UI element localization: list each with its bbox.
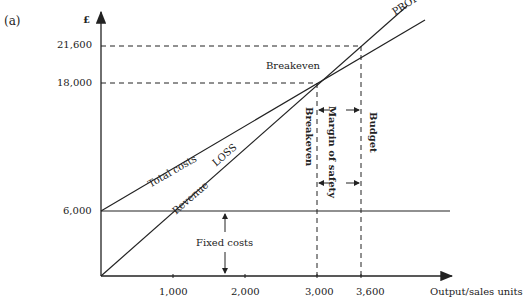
x-axis-title: Output/sales units [430,286,523,297]
budget-label: Budget [368,112,379,153]
breakeven-point-label: Breakeven [266,60,320,71]
x-tick-2000: 2,000 [231,286,260,297]
panel-label: (a) [4,14,21,28]
y-tick-6000: 6,000 [63,205,92,216]
margin-of-safety-label: Margin of safety [327,106,338,198]
y-tick-18000: 18,000 [57,77,92,88]
x-tick-1000: 1,000 [159,286,188,297]
y-tick-21600: 21,600 [57,39,92,50]
x-tick-3600: 3,600 [356,286,385,297]
y-axis-symbol: £ [83,14,90,25]
x-tick-3000: 3,000 [305,286,334,297]
breakeven-vertical-label: Breakeven [304,107,315,166]
fixed-costs-label: Fixed costs [196,237,253,248]
